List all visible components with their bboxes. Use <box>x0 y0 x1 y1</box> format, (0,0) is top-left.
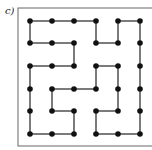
grid-dot <box>27 86 33 92</box>
grid-dot <box>115 63 121 69</box>
grid-dot <box>49 18 55 24</box>
grid-dot <box>137 131 143 137</box>
grid-dot <box>137 40 143 46</box>
grid-dot <box>93 108 99 114</box>
grid-dot <box>93 63 99 69</box>
grid-dot <box>137 108 143 114</box>
grid-dot <box>115 40 121 46</box>
grid-dot <box>115 18 121 24</box>
grid-dot <box>27 63 33 69</box>
grid-dot <box>115 86 121 92</box>
grid-dot <box>71 63 77 69</box>
grid-dot <box>27 40 33 46</box>
grid-dot <box>93 86 99 92</box>
grid-dot <box>49 131 55 137</box>
grid-dot <box>49 40 55 46</box>
grid-dot <box>49 108 55 114</box>
grid-dot <box>27 131 33 137</box>
dot-grid-maze-diagram <box>0 0 152 150</box>
grid-dot <box>137 63 143 69</box>
grid-dot <box>137 18 143 24</box>
grid-dot <box>71 108 77 114</box>
grid-dot <box>137 86 143 92</box>
grid-dot <box>71 131 77 137</box>
grid-dot <box>71 18 77 24</box>
grid-dot <box>115 108 121 114</box>
diagram-frame <box>18 8 152 146</box>
grid-dot <box>93 40 99 46</box>
grid-dot <box>49 86 55 92</box>
grid-dot <box>93 131 99 137</box>
grid-dot <box>71 86 77 92</box>
grid-dot <box>115 131 121 137</box>
grid-dot <box>93 18 99 24</box>
grid-dot <box>49 63 55 69</box>
grid-dot <box>27 18 33 24</box>
grid-dot <box>27 108 33 114</box>
grid-dot <box>71 40 77 46</box>
